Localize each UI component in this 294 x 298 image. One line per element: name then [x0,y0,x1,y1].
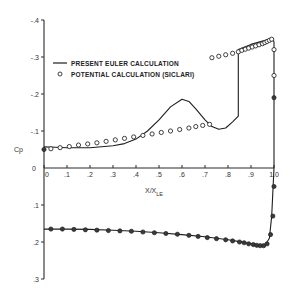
potential-data-point [224,53,228,57]
legend-label-euler: PRESENT EULER CALCULATION [71,60,179,67]
potential-data-point [194,124,198,128]
x-tick-label: .4 [133,171,139,178]
y-tick-label: .2 [33,239,39,246]
x-tick-label: .8 [225,171,231,178]
euler-data-point [118,229,122,233]
euler-data-point [224,238,228,242]
euler-data-point [237,240,241,244]
potential-data-point [122,136,126,140]
euler-data-point [72,227,76,231]
euler-curve [44,168,274,246]
plot-area [42,37,276,248]
x-axis-title-subscript: LE [156,191,163,197]
euler-data-point [231,239,235,243]
potential-data-point [95,141,99,145]
euler-data-point [95,228,99,232]
y-tick-label: .3 [33,276,39,283]
y-tick-label: -.1 [31,128,39,135]
euler-data-point [129,229,133,233]
x-tick-label: .6 [179,171,185,178]
euler-data-point [106,228,110,232]
potential-data-point [178,127,182,131]
y-tick-label-zero: 0 [32,165,36,172]
euler-data-point [272,96,276,100]
euler-data-point [42,147,46,151]
legend-circle-icon [58,72,62,76]
euler-data-point [141,230,145,234]
potential-data-point [49,147,53,151]
x-tick-label: .5 [156,171,162,178]
euler-data-point [175,232,179,236]
potential-data-point [76,143,80,147]
x-tick-label: .9 [248,171,254,178]
x-tick-label: .1 [64,171,70,178]
potential-data-point [187,126,191,130]
potential-data-point [168,129,172,133]
legend-label-potential: POTENTIAL CALCULATION (SICLARI) [71,71,194,79]
x-axis-title: X/XLE [145,187,163,197]
y-tick-label: -.4 [31,17,39,24]
x-tick-label: 0 [45,171,49,178]
x-tick-label: .7 [202,171,208,178]
y-tick-label: -.2 [31,91,39,98]
potential-data-point [132,135,136,139]
euler-data-point [271,214,275,218]
y-axis-title: Cp [14,146,23,154]
cp-distribution-chart: -.4-.3-.2-.1.1.2.300.1.2.3.4.5.6.7.8.91.… [0,0,294,298]
potential-data-point [141,133,145,137]
potential-data-point [86,142,90,146]
potential-data-point [67,144,71,148]
legend: PRESENT EULER CALCULATIONPOTENTIAL CALCU… [53,60,194,79]
euler-data-point [49,227,53,231]
potential-data-point [231,51,235,55]
euler-data-point [164,231,168,235]
potential-data-point [104,139,108,143]
potential-data-point [150,132,154,136]
euler-data-point [205,235,209,239]
euler-data-point [265,242,269,246]
euler-data-point [187,233,191,237]
potential-data-point [270,37,274,41]
potential-data-point [272,73,276,77]
x-tick-label: .3 [110,171,116,178]
x-axis-title-main: X/X [145,187,157,194]
euler-data-point [272,184,276,188]
euler-data-point [83,228,87,232]
euler-data-point [196,234,200,238]
euler-curve [44,39,274,169]
euler-data-point [214,237,218,241]
euler-data-point [60,227,64,231]
potential-data-point [272,48,276,52]
y-tick-label: -.3 [31,54,39,61]
y-tick-label: .1 [33,202,39,209]
potential-data-point [159,130,163,134]
euler-data-point [247,242,251,246]
potential-data-point [58,146,62,150]
euler-data-point [242,241,246,245]
x-tick-label: .2 [87,171,93,178]
euler-data-point [268,233,272,237]
potential-data-point [208,122,212,126]
potential-data-point [210,56,214,60]
potential-data-point [217,54,221,58]
euler-data-point [152,231,156,235]
potential-data-point [113,138,117,142]
potential-data-point [201,123,205,127]
